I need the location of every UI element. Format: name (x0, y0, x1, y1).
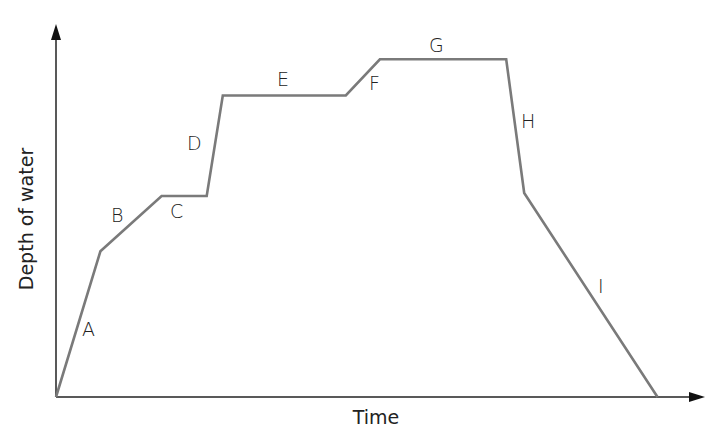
segment-label-h: H (521, 110, 535, 132)
y-axis-arrow-icon (51, 24, 61, 40)
segment-label-f: F (369, 72, 380, 94)
x-axis-title: Time (352, 406, 400, 428)
segment-label-b: B (111, 204, 123, 226)
segment-label-c: C (170, 200, 183, 222)
segment-label-d: D (187, 132, 202, 154)
segment-label-g: G (429, 34, 444, 56)
segment-label-i: I (598, 275, 604, 297)
depth-time-chart: A B C D E F G H I Time Depth of water (0, 0, 728, 438)
x-axis-arrow-icon (689, 392, 705, 402)
segment-label-a: A (82, 318, 95, 340)
y-axis-title: Depth of water (15, 148, 37, 291)
depth-line (56, 59, 658, 397)
segment-label-e: E (277, 68, 289, 90)
